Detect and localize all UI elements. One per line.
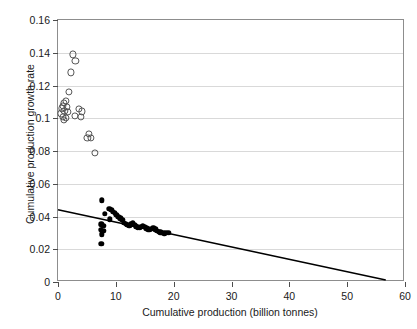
data-point-open	[65, 88, 72, 95]
y-tick-mark	[53, 20, 58, 21]
x-tick-mark	[405, 282, 406, 287]
gridline	[58, 86, 403, 87]
y-tick-label: 0.04	[30, 211, 50, 223]
y-tick-label: 0.14	[30, 47, 50, 59]
x-tick-label: 20	[168, 290, 180, 302]
x-tick-label: 10	[110, 290, 122, 302]
x-tick-label: 50	[341, 290, 353, 302]
plot-area: 00.020.040.060.080.10.120.140.16 0102030…	[57, 19, 404, 281]
gridline	[58, 249, 403, 250]
trendline	[58, 20, 403, 280]
x-tick-mark	[58, 282, 59, 287]
y-tick-label: 0.06	[30, 178, 50, 190]
data-point-filled	[99, 241, 104, 246]
x-tick-label: 60	[399, 290, 411, 302]
gridline	[58, 53, 403, 54]
data-point-open	[91, 149, 98, 156]
x-tick-mark	[289, 282, 290, 287]
data-point-filled	[99, 231, 104, 236]
data-point-filled	[102, 211, 107, 216]
gridline	[58, 118, 403, 119]
x-tick-mark	[232, 282, 233, 287]
data-point-open	[67, 69, 74, 76]
data-point-open	[87, 135, 94, 142]
x-tick-mark	[116, 282, 117, 287]
x-axis-label: Cumulative production (billion tonnes)	[56, 306, 404, 318]
scatter-chart-figure: Cumulative production growth rate 00.020…	[0, 0, 417, 329]
y-tick-label: 0.16	[30, 14, 50, 26]
gridline	[58, 151, 403, 152]
y-tick-label: 0.12	[30, 80, 50, 92]
x-tick-mark	[174, 282, 175, 287]
y-tick-mark	[53, 217, 58, 218]
y-tick-label: 0.08	[30, 145, 50, 157]
y-tick-mark	[53, 86, 58, 87]
y-tick-mark	[53, 249, 58, 250]
y-tick-mark	[53, 151, 58, 152]
y-tick-label: 0.02	[30, 243, 50, 255]
y-tick-label: 0.1	[35, 112, 50, 124]
data-point-filled	[99, 197, 104, 202]
data-point-open	[72, 57, 79, 64]
y-tick-mark	[53, 184, 58, 185]
data-point-filled	[166, 230, 171, 235]
x-tick-label: 0	[55, 290, 61, 302]
data-point-open	[60, 116, 67, 123]
x-tick-mark	[347, 282, 348, 287]
x-tick-label: 30	[226, 290, 238, 302]
data-point-filled	[107, 217, 112, 222]
y-tick-mark	[53, 118, 58, 119]
gridline	[58, 184, 403, 185]
y-tick-label: 0	[44, 276, 50, 288]
y-tick-mark	[53, 53, 58, 54]
x-tick-label: 40	[283, 290, 295, 302]
